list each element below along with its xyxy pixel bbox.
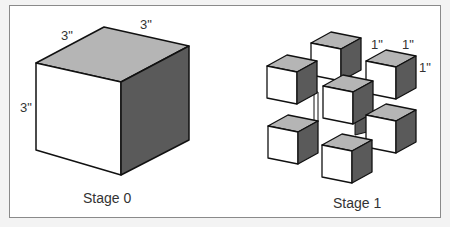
dimension-label-depth: 3" bbox=[61, 28, 73, 43]
stage1-cubes bbox=[267, 32, 416, 183]
unit-label-width: 1" bbox=[402, 37, 414, 52]
dimension-label-width: 3" bbox=[140, 17, 152, 32]
cube-bottom-right bbox=[366, 104, 416, 153]
unit-label-height: 1" bbox=[419, 60, 431, 75]
cube-back-top-left bbox=[311, 32, 361, 81]
stage0-cube bbox=[36, 27, 189, 175]
dimension-label-height: 3" bbox=[20, 100, 32, 115]
cube-bottom-front bbox=[322, 134, 372, 183]
unit-label-depth: 1" bbox=[371, 37, 383, 52]
stage0-caption: Stage 0 bbox=[83, 190, 131, 206]
cube-bottom-left bbox=[268, 115, 318, 164]
front-face bbox=[36, 63, 121, 175]
cube-top-left bbox=[267, 55, 317, 104]
stage1-caption: Stage 1 bbox=[333, 195, 381, 211]
